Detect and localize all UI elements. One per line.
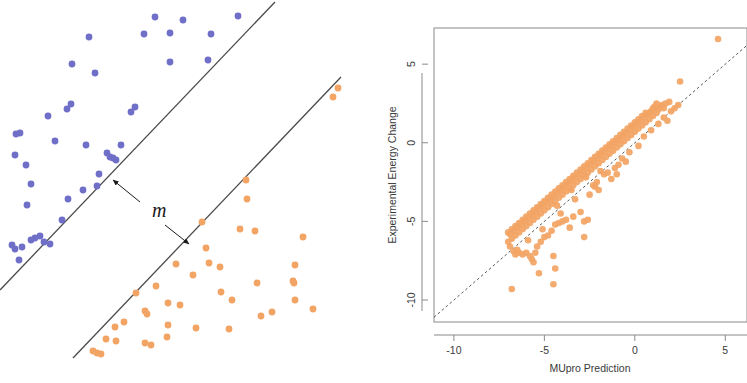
data-point — [615, 161, 622, 168]
margin-label: m — [152, 199, 166, 221]
data-point — [664, 117, 671, 124]
data-point — [112, 324, 119, 331]
data-point — [226, 326, 233, 333]
data-point — [96, 171, 103, 178]
data-point — [330, 94, 337, 101]
mupro-scatter-panel: -10-505 50-5-10 MUpro Prediction Experim… — [380, 0, 747, 383]
data-point — [550, 253, 557, 260]
data-point — [148, 342, 155, 349]
data-point — [86, 34, 93, 41]
data-point — [47, 241, 54, 248]
data-point — [12, 152, 19, 159]
data-point — [635, 143, 642, 150]
data-point — [205, 57, 212, 64]
data-point — [28, 237, 35, 244]
data-point — [217, 264, 224, 271]
data-point — [229, 297, 236, 304]
data-point — [675, 102, 682, 109]
data-point — [505, 229, 512, 236]
data-point — [16, 257, 23, 264]
svm-margin-panel: m — [0, 0, 380, 383]
data-point — [65, 196, 72, 203]
x-axis-tick-label: 5 — [722, 344, 728, 356]
data-point — [557, 210, 564, 217]
data-point — [509, 286, 516, 293]
data-point — [19, 244, 26, 251]
data-point — [128, 109, 135, 116]
data-point — [626, 149, 633, 156]
data-point — [237, 226, 244, 233]
data-point — [530, 259, 537, 266]
data-point — [52, 138, 59, 145]
data-point — [142, 340, 149, 347]
data-point — [94, 183, 101, 190]
y-axis-tick-label: 0 — [405, 140, 417, 146]
y-axis-tick-label: 5 — [405, 61, 417, 67]
data-point — [167, 59, 174, 66]
data-point — [218, 289, 225, 296]
data-point — [566, 224, 573, 231]
data-point — [335, 85, 342, 92]
x-axis-tick-label: -5 — [540, 344, 549, 356]
data-point — [41, 239, 48, 246]
data-point — [548, 228, 555, 235]
data-point — [550, 281, 557, 288]
data-point — [655, 121, 662, 128]
data-point — [113, 157, 120, 164]
data-point — [180, 17, 187, 24]
data-point — [244, 196, 251, 203]
data-point — [69, 61, 76, 68]
data-point — [525, 237, 532, 244]
y-axis-title: Experimental Energy Change — [386, 106, 398, 243]
data-point — [167, 30, 174, 37]
figure-root: m -10-505 50-5-10 MUpro Prediction Exper… — [0, 0, 747, 383]
data-point — [590, 182, 597, 189]
data-point — [292, 262, 299, 269]
data-point — [80, 187, 87, 194]
data-point — [581, 234, 588, 241]
data-point — [173, 261, 180, 268]
data-point — [514, 246, 521, 253]
data-point — [648, 127, 655, 134]
data-point — [622, 158, 629, 165]
svm-panel-background — [0, 0, 380, 383]
data-point — [199, 219, 206, 226]
data-point — [539, 226, 546, 233]
data-point — [45, 113, 52, 120]
y-axis-tick-label: -10 — [405, 292, 417, 307]
data-point — [103, 336, 110, 343]
data-point — [570, 213, 577, 220]
data-point — [601, 171, 608, 178]
data-point — [206, 260, 213, 267]
data-point — [203, 245, 210, 252]
data-point — [715, 36, 722, 43]
x-axis-tick-label: -10 — [446, 344, 461, 356]
data-point — [552, 265, 559, 272]
svm-margin-svg: m — [0, 0, 380, 383]
data-point — [177, 302, 184, 309]
data-point — [83, 142, 90, 149]
data-point — [269, 309, 276, 316]
data-point — [586, 191, 593, 198]
data-point — [608, 176, 615, 183]
data-point — [28, 181, 35, 188]
data-point — [292, 297, 299, 304]
data-point — [164, 334, 171, 341]
data-point — [59, 217, 66, 224]
data-point — [572, 196, 579, 203]
data-point — [258, 313, 265, 320]
y-axis-tick-label: -5 — [405, 217, 417, 226]
data-point — [190, 272, 197, 279]
data-point — [568, 187, 575, 194]
data-point — [24, 202, 31, 209]
data-point — [577, 209, 584, 216]
data-point — [536, 270, 543, 277]
data-point — [563, 217, 570, 224]
data-point — [113, 338, 120, 345]
data-point — [641, 133, 648, 140]
data-point — [613, 171, 620, 178]
data-point — [118, 142, 125, 149]
mupro-scatter-svg: -10-505 50-5-10 MUpro Prediction Experim… — [380, 0, 747, 383]
x-axis-tick-label: 0 — [632, 344, 638, 356]
data-point — [144, 311, 151, 318]
